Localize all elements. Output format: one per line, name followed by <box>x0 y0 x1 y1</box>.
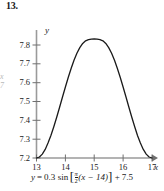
equation-caption: y=0.3sin[π2(x − 14)]+7.5 <box>0 171 164 185</box>
equation-amplitude: 0.3 <box>44 172 55 182</box>
plot-area: y x 7.2 7.3 7.4 7.5 7.6 7.7 7.8 13 14 15… <box>0 12 164 164</box>
y-tick-label-7-8: 7.8 <box>8 40 30 50</box>
equation-offset: 7.5 <box>122 172 133 182</box>
equation-fraction-numerator: π <box>75 171 78 178</box>
figure-container: 13. x 7 <box>0 0 164 191</box>
sine-curve <box>37 39 153 158</box>
y-tick-label-7-4: 7.4 <box>8 115 30 125</box>
equation-fraction-denominator: 2 <box>75 177 78 185</box>
equation-inner-expression: (x − 14) <box>78 172 108 182</box>
equation-fraction: π2 <box>75 171 78 185</box>
y-axis-label: y <box>45 25 49 35</box>
equation-equals: = <box>37 172 42 182</box>
y-tick-label-7-6: 7.6 <box>8 77 30 87</box>
y-tick-label-7-7: 7.7 <box>8 58 30 68</box>
problem-number: 13. <box>6 0 18 11</box>
equation-lhs: y <box>31 172 35 182</box>
equation-function: sin <box>58 172 69 182</box>
y-tick-label-7-5: 7.5 <box>8 96 30 106</box>
equation-plus: + <box>115 172 120 182</box>
y-tick-label-7-3: 7.3 <box>8 134 30 144</box>
x-axis-arrow <box>152 155 158 162</box>
y-tick-label-7-2: 7.2 <box>8 153 30 163</box>
